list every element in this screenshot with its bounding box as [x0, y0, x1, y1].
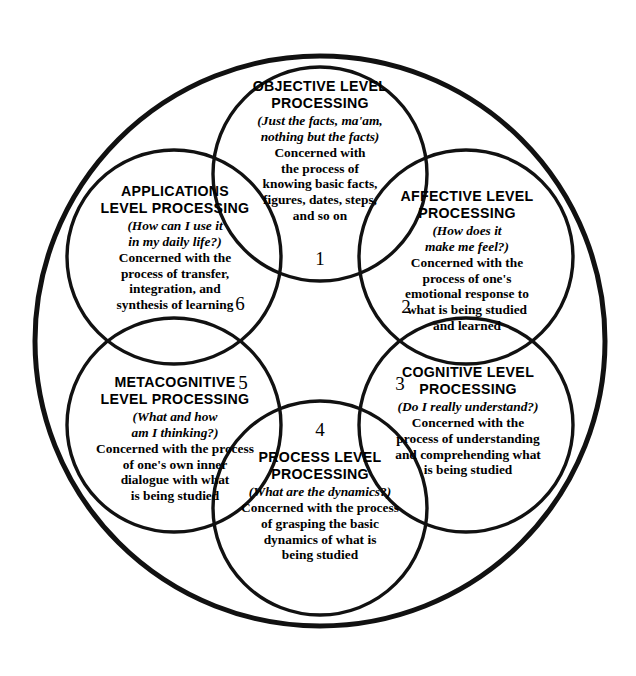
node-title-objective: OBJECTIVE LEVEL PROCESSING — [253, 78, 388, 112]
node-question-affective: (How does it make me feel?) — [425, 223, 509, 255]
node-question-cognitive: (Do I really understand?) — [398, 399, 539, 415]
node-question-applications: (How can I use it in my daily life?) — [127, 218, 222, 250]
node-question-objective: (Just the facts, ma'am, nothing but the … — [257, 113, 382, 145]
node-body-applications: Concerned with the process of transfer, … — [117, 250, 234, 313]
sequence-number-4: 4 — [308, 420, 332, 439]
node-title-cognitive: COGNITIVE LEVEL PROCESSING — [402, 364, 534, 398]
node-text-metacognitive[interactable]: METACOGNITIVE LEVEL PROCESSING (What and… — [56, 374, 294, 504]
node-body-affective: Concerned with the process of one's emot… — [405, 255, 529, 334]
levels-of-processing-diagram: OBJECTIVE LEVEL PROCESSING (Just the fac… — [0, 0, 636, 676]
node-text-affective[interactable]: AFFECTIVE LEVEL PROCESSING (How does it … — [356, 188, 578, 334]
node-title-metacognitive: METACOGNITIVE LEVEL PROCESSING — [101, 374, 250, 408]
node-title-affective: AFFECTIVE LEVEL PROCESSING — [401, 188, 534, 222]
node-text-applications[interactable]: APPLICATIONS LEVEL PROCESSING (How can I… — [60, 183, 290, 313]
sequence-number-5: 5 — [231, 373, 255, 392]
node-question-metacognitive: (What and how am I thinking?) — [131, 409, 218, 441]
node-title-applications: APPLICATIONS LEVEL PROCESSING — [101, 183, 250, 217]
node-body-metacognitive: Concerned with the process of one's own … — [96, 441, 254, 504]
sequence-number-1: 1 — [308, 249, 332, 268]
sequence-number-2: 2 — [394, 297, 418, 316]
node-body-process: Concerned with the process of grasping t… — [241, 500, 399, 563]
sequence-number-3: 3 — [388, 374, 412, 393]
sequence-number-6: 6 — [228, 294, 252, 313]
